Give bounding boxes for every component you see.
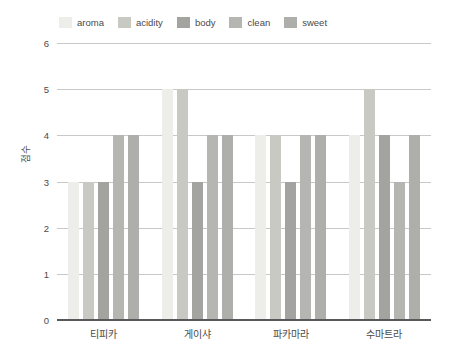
- bars-layer: [57, 43, 431, 320]
- legend-swatch-icon: [59, 17, 72, 28]
- bar-group: [349, 43, 420, 320]
- y-axis-tick-label: 6: [19, 38, 49, 49]
- x-axis-line: [57, 319, 431, 321]
- bar-group: [68, 43, 139, 320]
- legend-item-body[interactable]: body: [177, 17, 216, 28]
- y-axis-title: 점수: [18, 145, 32, 163]
- legend-swatch-icon: [229, 17, 242, 28]
- legend-item-label: clean: [247, 17, 270, 28]
- bar[interactable]: [394, 182, 405, 321]
- y-axis-tick-label: 1: [19, 268, 49, 279]
- bar[interactable]: [113, 135, 124, 320]
- legend-item-label: body: [195, 17, 216, 28]
- y-axis-tick-label: 0: [19, 315, 49, 326]
- x-axis-tick-label: 티피카: [90, 326, 117, 341]
- legend-item-acidity[interactable]: acidity: [118, 17, 163, 28]
- legend-item-label: acidity: [136, 17, 163, 28]
- bar[interactable]: [409, 135, 420, 320]
- bar-group: [162, 43, 233, 320]
- bar[interactable]: [207, 135, 218, 320]
- bar[interactable]: [255, 135, 266, 320]
- bar[interactable]: [349, 135, 360, 320]
- bar[interactable]: [300, 135, 311, 320]
- bar[interactable]: [128, 135, 139, 320]
- plot-area: [57, 43, 431, 320]
- legend-swatch-icon: [284, 17, 297, 28]
- bar[interactable]: [83, 182, 94, 321]
- legend-item-aroma[interactable]: aroma: [59, 17, 104, 28]
- y-axis-tick-label: 4: [19, 130, 49, 141]
- legend-swatch-icon: [118, 17, 131, 28]
- bar-chart: aromaaciditybodycleansweet 점수 0123456 티피…: [0, 0, 453, 358]
- bar[interactable]: [162, 89, 173, 320]
- legend-swatch-icon: [177, 17, 190, 28]
- y-axis-tick-label: 5: [19, 84, 49, 95]
- bar[interactable]: [177, 89, 188, 320]
- x-axis-tick-label: 게이샤: [184, 326, 211, 341]
- legend-item-clean[interactable]: clean: [229, 17, 270, 28]
- bar[interactable]: [270, 135, 281, 320]
- bar[interactable]: [222, 135, 233, 320]
- legend-item-label: aroma: [77, 17, 104, 28]
- bar[interactable]: [192, 182, 203, 321]
- bar-group: [255, 43, 326, 320]
- bar[interactable]: [379, 135, 390, 320]
- bar[interactable]: [364, 89, 375, 320]
- bar[interactable]: [68, 182, 79, 321]
- x-axis-tick-label: 파카마라: [273, 326, 309, 341]
- x-axis-tick-label: 수마트라: [366, 326, 402, 341]
- legend-item-sweet[interactable]: sweet: [284, 17, 327, 28]
- y-axis-tick-label: 3: [19, 176, 49, 187]
- chart-legend: aromaaciditybodycleansweet: [0, 12, 453, 32]
- legend-item-label: sweet: [302, 17, 327, 28]
- bar[interactable]: [315, 135, 326, 320]
- bar[interactable]: [98, 182, 109, 321]
- bar[interactable]: [285, 182, 296, 321]
- y-axis-tick-label: 2: [19, 222, 49, 233]
